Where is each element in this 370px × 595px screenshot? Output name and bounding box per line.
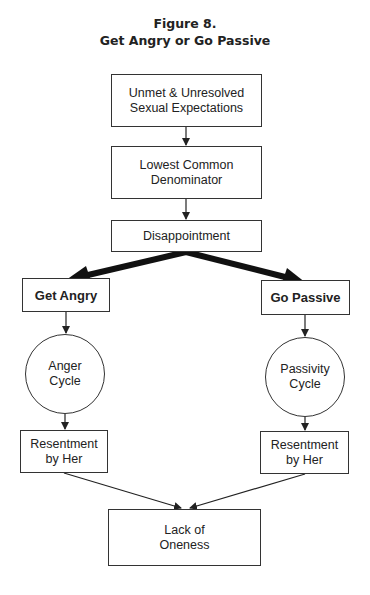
node-label: Go Passive	[270, 290, 340, 305]
node-disappointment: Disappointment	[111, 220, 262, 252]
node-get-angry: Get Angry	[22, 278, 110, 312]
node-label: Resentment by Her	[30, 437, 97, 467]
edge-resentment-right-to-lack	[190, 474, 305, 508]
node-go-passive: Go Passive	[261, 280, 350, 315]
node-label: Disappointment	[143, 229, 230, 244]
edge-resentment-left-to-lack	[64, 473, 181, 508]
node-label: Lowest Common Denominator	[140, 158, 234, 188]
node-anger-cycle: Anger Cycle	[25, 334, 105, 414]
node-label: Lack of Oneness	[159, 523, 209, 553]
node-resentment-right: Resentment by Her	[260, 431, 349, 474]
node-passivity-cycle: Passivity Cycle	[265, 337, 345, 417]
node-lack-of-oneness: Lack of Oneness	[108, 509, 261, 566]
node-unmet-expectations: Unmet & Unresolved Sexual Expectations	[111, 74, 262, 127]
node-label: Anger Cycle	[48, 359, 81, 389]
node-label: Unmet & Unresolved Sexual Expectations	[129, 86, 244, 116]
node-label: Resentment by Her	[271, 438, 338, 468]
node-label: Passivity Cycle	[280, 362, 329, 392]
node-label: Get Angry	[35, 288, 97, 303]
node-resentment-left: Resentment by Her	[20, 430, 108, 473]
node-lowest-common-denominator: Lowest Common Denominator	[111, 146, 262, 199]
